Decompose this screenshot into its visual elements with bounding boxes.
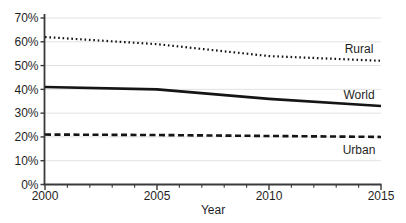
x-tick-label: 2010 — [256, 189, 283, 203]
series-label-world: World — [343, 88, 374, 102]
y-tick-label: 70% — [14, 11, 38, 25]
y-tick-label: 40% — [14, 83, 38, 97]
y-tick-label: 20% — [14, 130, 38, 144]
y-tick-label: 30% — [14, 106, 38, 120]
y-tick-label: 50% — [14, 59, 38, 73]
x-axis-title: Year — [45, 203, 381, 217]
series-label-urban: Urban — [343, 143, 376, 157]
y-tick-label: 60% — [14, 35, 38, 49]
series-label-rural: Rural — [345, 42, 374, 56]
chart-canvas: 0%10%20%30%40%50%60%70%2000200520102015R… — [0, 0, 406, 223]
series-line-rural — [45, 37, 381, 61]
y-tick-label: 10% — [14, 154, 38, 168]
line-chart-figure: 0%10%20%30%40%50%60%70%2000200520102015R… — [0, 0, 406, 223]
x-tick-label: 2015 — [368, 189, 395, 203]
x-tick-label: 2005 — [144, 189, 171, 203]
x-tick-label: 2000 — [32, 189, 59, 203]
